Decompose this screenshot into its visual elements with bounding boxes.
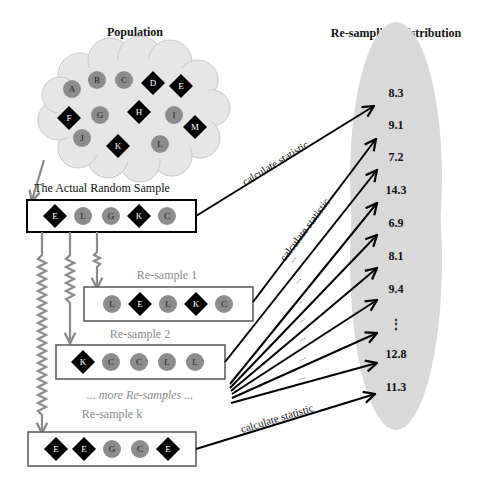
calculate-statistic-label-3: calculate statistic xyxy=(239,401,315,435)
svg-text:...: ... xyxy=(297,351,307,363)
svg-text:L: L xyxy=(80,211,86,221)
svg-text:...: ... xyxy=(296,332,307,344)
svg-text:L: L xyxy=(109,299,115,309)
svg-text:...: ... xyxy=(295,313,307,325)
svg-text:L: L xyxy=(165,299,171,309)
svg-text:...: ... xyxy=(286,253,298,264)
circle-item: A xyxy=(63,80,81,98)
svg-text:H: H xyxy=(136,107,143,117)
circle-item: J xyxy=(73,129,91,147)
circle-item: L xyxy=(74,207,92,225)
circle-item: G xyxy=(91,106,109,124)
svg-text:L: L xyxy=(192,357,198,367)
distribution-value: ⋮ xyxy=(390,317,402,331)
circle-item: L xyxy=(159,295,177,313)
svg-text:E: E xyxy=(165,444,171,454)
circle-item: G xyxy=(102,207,120,225)
circle-item: L xyxy=(103,295,121,313)
svg-text:F: F xyxy=(66,113,71,123)
distribution-value: 11.3 xyxy=(386,380,406,394)
svg-text:G: G xyxy=(108,211,115,221)
svg-text:C: C xyxy=(136,357,142,367)
svg-text:E: E xyxy=(52,211,58,221)
circle-item: C xyxy=(131,440,149,458)
svg-text:K: K xyxy=(193,299,200,309)
svg-text:C: C xyxy=(137,444,143,454)
circle-item: L xyxy=(151,135,169,153)
svg-text:L: L xyxy=(157,139,163,149)
distribution-value: 8.1 xyxy=(389,249,404,263)
actual-sample-title: The Actual Random Sample xyxy=(34,181,170,195)
distribution-value: 14.3 xyxy=(386,183,407,197)
resample-1-title: Re-sample 1 xyxy=(137,268,197,282)
svg-text:C: C xyxy=(221,299,227,309)
svg-text:...: ... xyxy=(291,274,303,286)
svg-text:C: C xyxy=(164,211,170,221)
circle-item: I xyxy=(165,106,183,124)
circle-item: G xyxy=(103,440,121,458)
distribution-value: 7.2 xyxy=(389,150,404,164)
resample-k-title: Re-sample k xyxy=(82,407,142,421)
distribution-value: 12.8 xyxy=(386,347,407,361)
circle-item: C xyxy=(102,353,120,371)
svg-text:E: E xyxy=(137,299,143,309)
circle-item: C xyxy=(130,353,148,371)
svg-text:E: E xyxy=(53,444,59,454)
resample-2-title: Re-sample 2 xyxy=(110,327,170,341)
svg-text:K: K xyxy=(115,141,122,151)
svg-text:E: E xyxy=(81,444,87,454)
circle-item: L xyxy=(186,353,204,371)
svg-text:K: K xyxy=(136,211,143,221)
svg-text:L: L xyxy=(164,357,170,367)
distribution-value: 6.9 xyxy=(389,216,404,230)
svg-text:B: B xyxy=(94,75,100,85)
svg-text:I: I xyxy=(173,110,176,120)
svg-text:G: G xyxy=(97,110,104,120)
svg-text:G: G xyxy=(109,444,116,454)
circle-item: C xyxy=(115,71,133,89)
svg-text:D: D xyxy=(150,78,157,88)
circle-item: B xyxy=(88,71,106,89)
circle-item: C xyxy=(158,207,176,225)
svg-text:M: M xyxy=(191,122,199,132)
svg-text:E: E xyxy=(178,81,184,91)
svg-text:C: C xyxy=(108,357,114,367)
svg-text:K: K xyxy=(80,357,87,367)
distribution-value: 8.3 xyxy=(389,86,404,100)
svg-text:A: A xyxy=(69,84,76,94)
calculate-statistic-label-1: calculate statistic xyxy=(240,138,311,188)
calculate-statistic-label-2: calculate statistic xyxy=(277,196,332,264)
more-resamples-label: ... more Re-samples ... xyxy=(87,388,194,402)
distribution-value: 9.1 xyxy=(389,118,404,132)
circle-item: L xyxy=(158,353,176,371)
resample-drop-arrows xyxy=(38,232,100,432)
svg-text:...: ... xyxy=(297,370,306,382)
circle-item: C xyxy=(215,295,233,313)
resampling-diagram: Population Re-sampling Distribution ABCD… xyxy=(0,0,487,492)
svg-text:C: C xyxy=(121,75,127,85)
distribution-value: 9.4 xyxy=(389,282,404,296)
svg-text:J: J xyxy=(80,133,84,143)
